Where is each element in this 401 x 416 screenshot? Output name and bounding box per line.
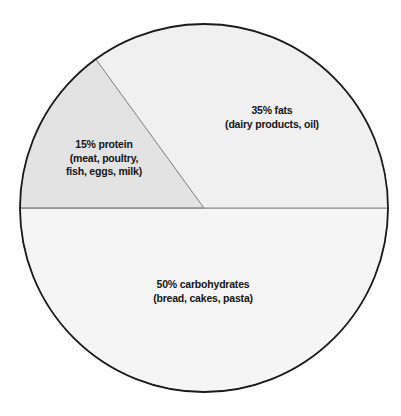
pie-chart-graphic [0,0,401,416]
slice-label-fats-percent: 35% fats [225,104,319,118]
slice-label-carbohydrates: 50% carbohydrates (bread, cakes, pasta) [153,278,253,305]
slice-label-carbohydrates-percent: 50% carbohydrates [153,278,253,292]
slice-label-fats-detail: (dairy products, oil) [225,118,319,132]
slice-label-protein-percent: 15% protein [66,138,142,152]
slice-label-protein-detail-1: (meat, poultry, [66,152,142,166]
slice-label-protein-detail-2: fish, eggs, milk) [66,165,142,179]
slice-label-fats: 35% fats (dairy products, oil) [225,104,319,131]
pie-chart: 35% fats (dairy products, oil) 15% prote… [0,0,401,416]
slice-label-protein: 15% protein (meat, poultry, fish, eggs, … [66,138,142,179]
slice-label-carbohydrates-detail: (bread, cakes, pasta) [153,292,253,306]
